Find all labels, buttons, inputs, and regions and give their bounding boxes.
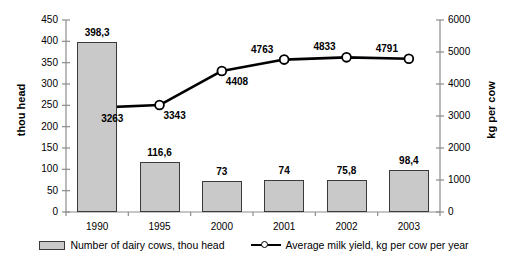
line-value-label-1990: 3263 xyxy=(101,113,145,124)
x-axis-category-label-1995: 1995 xyxy=(130,221,190,232)
line-value-label-2000: 4408 xyxy=(226,76,270,87)
y-axis-right-tick-label: 5000 xyxy=(448,47,482,57)
line-value-label-2003: 4791 xyxy=(365,43,409,54)
y-axis-left-tick-label: 300 xyxy=(24,79,58,89)
y-axis-right-tick-label: 4000 xyxy=(448,79,482,89)
chart-container: thou head kg per cow 0501001502002503003… xyxy=(0,0,508,271)
line-value-label-2001: 4763 xyxy=(240,44,284,55)
legend-label-line: Average milk yield, kg per cow per year xyxy=(286,239,469,251)
y-axis-right-tick-label: 2000 xyxy=(448,143,482,153)
line-marker-2003[interactable] xyxy=(404,54,413,63)
line-marker-2001[interactable] xyxy=(280,55,289,64)
y-axis-left-tick-label: 450 xyxy=(24,15,58,25)
y-axis-left-tick-label: 400 xyxy=(24,36,58,46)
bar-value-label-2000: 73 xyxy=(192,166,252,177)
y-axis-right-tick-label: 1000 xyxy=(448,175,482,185)
y-axis-right-tick-label: 0 xyxy=(448,207,482,217)
bar-swatch-icon xyxy=(39,241,65,250)
legend-item-bars: Number of dairy cows, thou head xyxy=(39,239,224,251)
y-axis-right-tick-label: 3000 xyxy=(448,111,482,121)
y-axis-left-tick-label: 0 xyxy=(24,207,58,217)
x-axis-category-label-2000: 2000 xyxy=(192,221,252,232)
y-axis-left-tick-label: 100 xyxy=(24,164,58,174)
x-axis-category-label-2003: 2003 xyxy=(379,221,439,232)
x-axis-category-label-2001: 2001 xyxy=(254,221,314,232)
y-axis-left-tick-label: 350 xyxy=(24,58,58,68)
bar-value-label-1990: 398,3 xyxy=(67,27,127,38)
bar-1995[interactable] xyxy=(140,162,180,212)
bar-2001[interactable] xyxy=(264,180,304,212)
bar-value-label-2003: 98,4 xyxy=(379,155,439,166)
bar-2003[interactable] xyxy=(389,170,429,212)
bar-value-label-2002: 75,8 xyxy=(317,165,377,176)
legend-label-bars: Number of dairy cows, thou head xyxy=(70,239,224,251)
bar-value-label-2001: 74 xyxy=(254,165,314,176)
x-axis-category-label-2002: 2002 xyxy=(317,221,377,232)
chart-legend: Number of dairy cows, thou head Average … xyxy=(0,239,508,251)
line-marker-2002[interactable] xyxy=(342,53,351,62)
legend-item-line: Average milk yield, kg per cow per year xyxy=(251,239,469,251)
y-axis-left-tick-label: 200 xyxy=(24,122,58,132)
line-value-label-1995: 3343 xyxy=(164,110,208,121)
y-axis-left-tick-label: 150 xyxy=(24,143,58,153)
y-axis-right-tick-label: 6000 xyxy=(448,15,482,25)
bar-2000[interactable] xyxy=(202,181,242,212)
x-axis-category-label-1990: 1990 xyxy=(67,221,127,232)
bar-value-label-1995: 116,6 xyxy=(130,147,190,158)
bar-2002[interactable] xyxy=(327,180,367,212)
y-axis-left-tick-label: 50 xyxy=(24,186,58,196)
line-marker-swatch-icon xyxy=(251,241,281,250)
bar-1990[interactable] xyxy=(77,42,117,212)
y-axis-left-tick-label: 250 xyxy=(24,100,58,110)
line-marker-2000[interactable] xyxy=(217,67,226,76)
x-axis-ticks xyxy=(66,212,440,216)
line-marker-1995[interactable] xyxy=(155,101,164,110)
line-value-label-2002: 4833 xyxy=(303,41,347,52)
